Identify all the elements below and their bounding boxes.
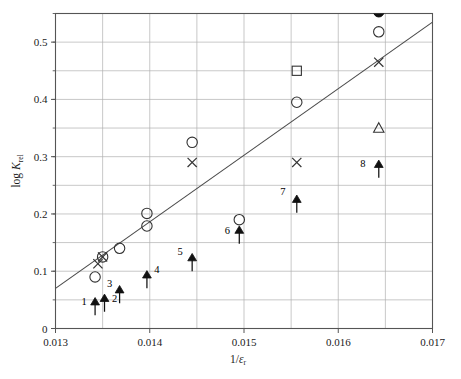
y-axis-title: log Krel (10, 154, 25, 187)
x-axis-title: 1/εr (230, 353, 247, 368)
lower-bound-label: 5 (178, 246, 183, 257)
y-axis-tick-label: 0.2 (34, 208, 48, 220)
data-point-circle-open (292, 97, 302, 107)
data-point-triangle-open (374, 123, 384, 133)
data-point-circle-open (234, 214, 244, 224)
x-axis-tick-label: 0.013 (43, 336, 68, 348)
y-axis-tick-label: 0.5 (34, 36, 48, 48)
lower-bound-label: 2 (112, 293, 117, 304)
lower-bound-label: 1 (81, 296, 86, 307)
lower-bound-label: 6 (225, 225, 230, 236)
x-axis-tick-label: 0.017 (420, 336, 445, 348)
y-axis-tick-label: 0 (42, 323, 48, 335)
data-point-circle-open (90, 272, 100, 282)
y-axis-tick-label: 0.3 (34, 151, 48, 163)
lower-bound-label: 7 (280, 186, 285, 197)
y-axis-tick-label: 0.1 (34, 265, 48, 277)
lower-bound-label: 3 (107, 278, 112, 289)
data-point-circle-open (187, 137, 197, 147)
x-axis-tick-label: 0.015 (232, 336, 257, 348)
x-axis-tick-label: 0.016 (326, 336, 351, 348)
lower-bound-label: 4 (154, 264, 160, 275)
data-point-circle-open (374, 27, 384, 37)
y-axis-tick-label: 0.4 (34, 93, 48, 105)
scatter-chart-figure: 0.0130.0140.0150.0160.01700.10.20.30.40.… (0, 0, 461, 379)
plot-canvas: 0.0130.0140.0150.0160.01700.10.20.30.40.… (0, 0, 461, 379)
lower-bound-label: 8 (360, 158, 365, 169)
data-point-circle-open (114, 243, 124, 253)
data-point-circle-open (142, 208, 152, 218)
x-axis-tick-label: 0.014 (137, 336, 162, 348)
data-point-circle-filled (374, 7, 384, 17)
